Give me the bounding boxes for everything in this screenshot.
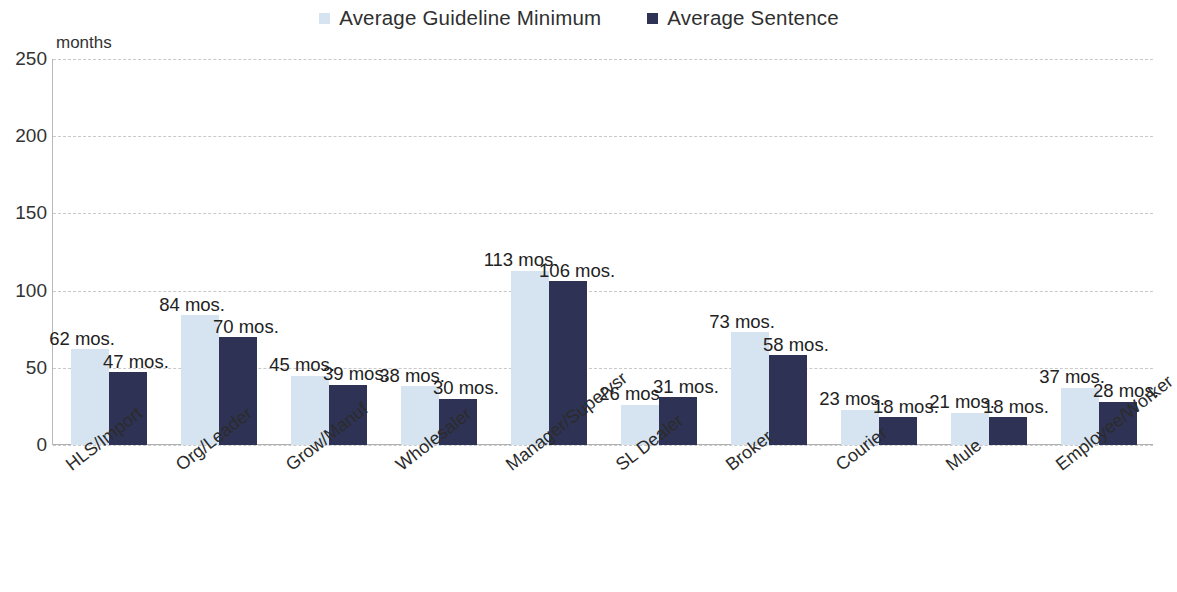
bar-value-label: 73 mos. (709, 312, 775, 331)
legend-swatch-light-icon (319, 13, 330, 24)
legend-label-average-guideline-minimum: Average Guideline Minimum (339, 6, 601, 30)
legend-item-average-guideline-minimum: Average Guideline Minimum (319, 6, 601, 30)
x-axis-category: Org/Leader (163, 449, 273, 589)
x-axis-category: Wholesaler (383, 449, 493, 589)
bar-value-label: 70 mos. (213, 317, 279, 336)
y-axis-tick-label: 150 (1, 202, 47, 224)
bar-group: 37 mos.28 mos. (1044, 59, 1154, 445)
x-axis-category: Grow/Manuf (273, 449, 383, 589)
x-axis-category: Courier (823, 449, 933, 589)
bar-group: 23 mos.18 mos. (824, 59, 934, 445)
x-axis-category: Mule (933, 449, 1043, 589)
y-axis-unit-label: months (56, 33, 112, 53)
y-axis-tick-label: 250 (1, 48, 47, 70)
legend-swatch-dark-icon (647, 13, 658, 24)
legend-label-average-sentence: Average Sentence (667, 6, 839, 30)
bar-group: 45 mos.39 mos. (274, 59, 384, 445)
y-axis-tick-label: 50 (1, 357, 47, 379)
chart-legend: Average Guideline Minimum Average Senten… (0, 6, 1158, 30)
bar-group: 113 mos.106 mos. (494, 59, 604, 445)
bar-group: 73 mos.58 mos. (714, 59, 824, 445)
bar-group: 62 mos.47 mos. (54, 59, 164, 445)
bar-value-label: 47 mos. (103, 352, 169, 371)
bar-value-label: 84 mos. (159, 295, 225, 314)
bar-value-label: 62 mos. (49, 329, 115, 348)
x-axis-category: Employee/Worker (1043, 449, 1153, 589)
x-axis-category: Broker (713, 449, 823, 589)
bar-group: 21 mos.18 mos. (934, 59, 1044, 445)
x-axis-category: Manager/Supervsr (493, 449, 603, 589)
x-axis-category: SL Dealer (603, 449, 713, 589)
bar-value-label: 31 mos. (653, 377, 719, 396)
bar-group: 38 mos.30 mos. (384, 59, 494, 445)
bar: 58 mos. (769, 355, 807, 445)
y-axis-tick-label: 0 (1, 434, 47, 456)
x-axis-categories: HLS/ImportOrg/LeaderGrow/ManufWholesaler… (53, 449, 1153, 589)
y-axis-tick-label: 100 (1, 280, 47, 302)
bar-group: 84 mos.70 mos. (164, 59, 274, 445)
bar: 113 mos. (511, 271, 549, 445)
x-axis-category: HLS/Import (53, 449, 163, 589)
bar-value-label: 30 mos. (433, 378, 499, 397)
bar-value-label: 18 mos. (983, 397, 1049, 416)
bar-value-label: 58 mos. (763, 335, 829, 354)
legend-item-average-sentence: Average Sentence (647, 6, 839, 30)
y-axis-tick-label: 200 (1, 125, 47, 147)
bar: 18 mos. (989, 417, 1027, 445)
